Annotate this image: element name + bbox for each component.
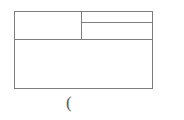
table-cell-top-right-upper (82, 12, 152, 22)
screenshot-canvas: ( (0, 0, 184, 120)
caption-left-parenthesis-glyph: ( (66, 94, 72, 111)
table-cell-body (15, 40, 152, 88)
table-cell-top-left-text (15, 12, 81, 14)
table-cell-top-right-upper-text (82, 12, 152, 14)
table-cell-top-left (15, 12, 81, 39)
table-cell-body-text (15, 40, 152, 42)
table-cell-top-right-lower-text (82, 23, 152, 25)
table-cell-top-right-lower (82, 23, 152, 39)
